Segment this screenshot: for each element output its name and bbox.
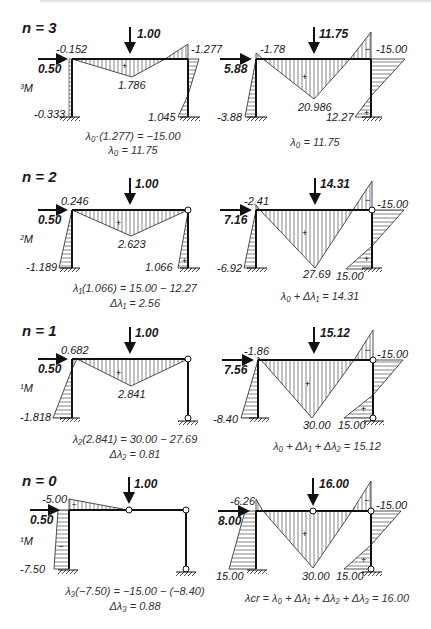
n1-right-load-v: 15.12 — [320, 326, 350, 340]
svg-text:+: + — [116, 218, 121, 228]
n1-left-midspan: 2.841 — [118, 388, 146, 400]
n2-left-eq-1: λ₁(1.066) = 15.00 − 12.27 — [60, 282, 210, 294]
svg-text:−: − — [365, 345, 370, 355]
svg-text:+: + — [361, 404, 366, 414]
n0-left-load-h: 0.50 — [30, 513, 53, 527]
svg-text:−: − — [72, 500, 77, 509]
n0-right-top-left: -6.26 — [230, 495, 255, 507]
n0-right-midspan: 30.00 — [302, 570, 330, 582]
n1-right-midspan: 30.00 — [303, 419, 331, 431]
n2-left-base-right: 1.066 — [145, 261, 173, 273]
n3-left-load-v: 1.00 — [137, 27, 160, 41]
n2-right-top-left: -2.41 — [244, 195, 269, 207]
n3-left-base-right: 1.045 — [148, 111, 176, 123]
svg-text:+: + — [182, 256, 187, 266]
n1-right-top-left: -1.86 — [244, 345, 269, 357]
n1-moment-label: ¹M — [20, 382, 33, 394]
n1-right-eq-1: λ₀ + Δλ₁ + Δλ₂ = 15.12 — [262, 440, 392, 452]
n0-label: n = 0 — [22, 472, 57, 489]
n3-right-base-right: 12.27 — [326, 111, 354, 123]
n0-right-eq-1: λcr = λ₀ + Δλ₁ + Δλ₂ + Δλ₃ = 16.00 — [237, 592, 417, 604]
n1-left-top-left: 0.682 — [61, 344, 89, 356]
n3-left-base-left: -0.333 — [34, 108, 65, 120]
n1-right-top-right: -15.00 — [377, 348, 408, 360]
n0-right-base-right: 15.00 — [336, 570, 364, 582]
n0-moment-label: ¹M — [20, 535, 33, 547]
n2-left-load-v: 1.00 — [135, 177, 158, 191]
n3-left-top-left: -0.152 — [56, 43, 87, 55]
n2-left-top-left: 0.246 — [61, 195, 89, 207]
n3-left-midspan: 1.786 — [118, 79, 146, 91]
n2-left-eq-2: Δλ₁ = 2.56 — [60, 297, 210, 309]
n2-right-eq-1: λ₀ + Δλ₁ = 14.31 — [270, 290, 370, 302]
svg-text:+: + — [361, 555, 366, 565]
svg-text:+: + — [302, 228, 307, 238]
n2-right-top-right: -15.00 — [377, 198, 408, 210]
n0-left-eq-1: λ₃(−7.50) = −15.00 − (−8.40) — [50, 585, 220, 597]
n1-right-load-h: 7.56 — [224, 363, 247, 377]
n0-left-top-left: -5.00 — [42, 493, 67, 505]
plus-sign: + — [122, 61, 127, 71]
svg-text:+: + — [305, 379, 310, 389]
n3-left-top-right: -1.277 — [191, 43, 222, 55]
n1-right-base-right: 15.00 — [338, 419, 366, 431]
diagram-canvas: + + − + + + — [0, 0, 431, 629]
n3-right-top-right: -15.00 — [376, 43, 407, 55]
svg-text:−: − — [365, 195, 370, 205]
svg-text:+: + — [302, 529, 307, 539]
n0-right-top-right: -15.00 — [376, 499, 407, 511]
n0-left-base-left: -7.50 — [20, 563, 45, 575]
svg-text:−: − — [364, 495, 369, 505]
n3-right-eq-1: λ₀ = 11.75 — [270, 136, 360, 148]
n0-left-load-v: 1.00 — [134, 477, 157, 491]
n1-left-eq-1: λ₂(2.841) = 30.00 − 27.69 — [60, 433, 210, 445]
n1-left-load-v: 1.00 — [135, 326, 158, 340]
svg-text:+: + — [364, 108, 369, 118]
frame-n2-right: + − + — [220, 178, 404, 272]
n3-right-load-h: 5.88 — [224, 62, 247, 76]
n0-right-load-h: 8.00 — [218, 514, 241, 528]
n3-left-eq-2: λ₀ = 11.75 — [78, 144, 188, 156]
n2-moment-label: ²M — [20, 233, 33, 245]
n2-right-load-v: 14.31 — [320, 177, 350, 191]
n2-left-load-h: 0.50 — [38, 213, 61, 227]
n2-right-midspan: 27.69 — [303, 268, 331, 280]
n0-left-eq-2: Δλ₃ = 0.88 — [50, 600, 220, 612]
n2-right-base-left: -6.92 — [217, 262, 242, 274]
svg-text:+: + — [364, 254, 369, 264]
n3-right-top-left: -1.78 — [260, 43, 285, 55]
n3-left-load-h: 0.50 — [38, 62, 61, 76]
n2-label: n = 2 — [22, 168, 57, 185]
n2-left-midspan: 2.623 — [118, 238, 146, 250]
frame-n0-right: + − + — [218, 478, 401, 576]
frame-n1-left: + — [38, 327, 198, 425]
n3-right-base-left: -3.88 — [217, 111, 242, 123]
n1-left-eq-2: Δλ₂ = 0.81 — [60, 448, 210, 460]
frame-n2-left: + + — [38, 178, 200, 272]
n3-moment-label: ³M — [20, 82, 33, 94]
n1-left-base-left: -1.818 — [20, 411, 51, 423]
n2-left-base-left: -1.189 — [26, 261, 57, 273]
n0-right-load-v: 16.00 — [319, 477, 349, 491]
n3-right-load-v: 11.75 — [319, 27, 348, 41]
svg-text:−: − — [365, 44, 370, 54]
n1-right-base-left: -8.40 — [213, 413, 238, 425]
n1-label: n = 1 — [22, 322, 57, 339]
svg-text:−: − — [59, 542, 64, 551]
frame-n1-right: + − + — [222, 327, 403, 425]
frame-n3-left: + — [38, 27, 200, 121]
n0-right-base-left: 15.00 — [216, 570, 244, 582]
svg-text:+: + — [116, 368, 121, 378]
svg-text:+: + — [302, 72, 307, 82]
n2-right-base-right: 15.00 — [336, 270, 364, 282]
n3-left-eq-1: λ₀·(1.277) = −15.00 — [78, 130, 188, 142]
frame-n0-left: − − — [30, 477, 196, 576]
n2-right-load-h: 7.16 — [224, 213, 247, 227]
n1-left-load-h: 0.50 — [38, 362, 61, 376]
